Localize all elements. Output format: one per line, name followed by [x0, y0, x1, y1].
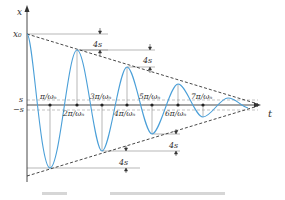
envelope-step-label-top-1: 4s — [92, 40, 102, 49]
caption-blur-1 — [42, 192, 67, 195]
x-axis-arrow-icon — [25, 5, 30, 12]
envelope-step-label-bottom-1: 4s — [118, 158, 128, 167]
x-axis-label: x — [17, 7, 22, 17]
half-period-label-1: π/ωₙ — [39, 92, 57, 101]
half-period-label-6: 6π/ωₙ — [165, 109, 186, 118]
half-period-label-2: 2π/ωₙ — [62, 109, 84, 118]
half-period-label-3: 3π/ωₙ — [90, 92, 111, 101]
half-period-label-7: 7π/ωₙ — [191, 92, 212, 101]
caption-blur-2 — [110, 192, 225, 195]
envelope-step-label-top-2: 4s — [142, 56, 152, 65]
t-axis-label: t — [268, 108, 273, 119]
envelope-step-label-bottom-2: 4s — [168, 141, 178, 150]
s-label: s — [19, 95, 23, 104]
oscillation-curve — [27, 34, 248, 168]
friction-damped-oscillation-diagram: x x₀ s −s t 4s 4s 4s 4s π/ωₙ 2π/ωₙ 3π/ωₙ… — [0, 0, 285, 200]
lower-envelope — [27, 106, 258, 176]
t-axis-arrow-icon — [254, 103, 261, 108]
half-period-label-5: 5π/ωₙ — [139, 92, 160, 101]
x0-label: x₀ — [13, 29, 22, 39]
neg-s-label: −s — [13, 105, 24, 114]
half-period-label-4: 4π/ωₙ — [113, 109, 135, 118]
